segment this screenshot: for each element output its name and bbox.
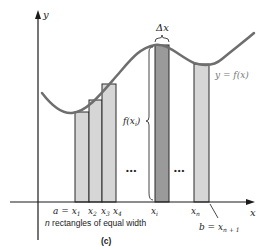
height-label: f(xi) [122, 116, 141, 127]
tick-label-x3: x3 [101, 206, 110, 217]
y-axis-arrow-icon [35, 10, 41, 19]
delta-x-label: Δx [155, 22, 169, 33]
rectangle-x3 [102, 84, 116, 202]
footnote: n rectangles of equal width [45, 218, 146, 228]
tick-label-xn: xn [191, 206, 200, 217]
figure-caption: (c) [101, 236, 112, 246]
curve-label: y = f(x) [214, 70, 249, 80]
delta-x-brace [155, 35, 169, 42]
ellipsis-left: ••• [126, 166, 137, 175]
x-axis-arrow-icon [246, 199, 255, 205]
tick-label-a-x1: a = x1 [53, 206, 81, 217]
ellipsis-right: ••• [174, 166, 185, 175]
rectangles [75, 45, 209, 202]
rectangle-xn [194, 64, 209, 202]
tick-label-xi: xi [151, 206, 158, 217]
tick-label-b: b = xn + 1 [199, 222, 240, 233]
rectangle-x1 [75, 112, 89, 202]
height-brace [146, 47, 153, 200]
rectangle-xi [155, 45, 169, 202]
y-axis-label: y [42, 9, 49, 20]
tick-label-x2: x2 [88, 206, 97, 217]
tick-label-x4: x4 [113, 206, 122, 217]
b-pointer-line [210, 204, 218, 218]
rectangle-x2 [89, 100, 102, 202]
x-axis-label: x [250, 207, 256, 218]
riemann-sum-diagram: y x Δx f(xi) ••• ••• y = f(x) a = x1 x2 … [0, 0, 265, 250]
